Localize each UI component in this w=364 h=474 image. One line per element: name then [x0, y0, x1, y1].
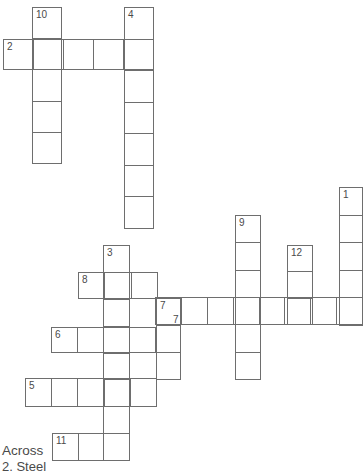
- crossword-cell: [157, 352, 180, 379]
- cell-number: 7: [160, 300, 166, 311]
- crossword-cell: [131, 273, 157, 298]
- crossword-cell: [340, 242, 362, 270]
- crossword-cell: [104, 273, 130, 298]
- crossword-cell: [123, 40, 153, 69]
- crossword-cell: [284, 298, 310, 324]
- word-8-across: 8: [78, 272, 158, 299]
- word-7-across: 7: [155, 297, 363, 325]
- crossword-cell: [33, 69, 61, 100]
- crossword-cell: [104, 353, 129, 380]
- crossword-cell: [93, 40, 123, 69]
- crossword-cell: [236, 242, 260, 269]
- crossword-cell: 3: [104, 246, 129, 272]
- crossword-cell: [340, 270, 362, 298]
- crossword-cell: [181, 298, 207, 324]
- crossword-cell: [340, 215, 362, 243]
- crossword-cell: [157, 325, 180, 352]
- cell-number: 10: [36, 9, 47, 20]
- crossword-cell: [125, 70, 153, 102]
- cell-number: 9: [239, 217, 245, 228]
- cell-number: 3: [107, 247, 113, 258]
- cell-number: 8: [82, 274, 88, 285]
- crossword-cell: 8: [79, 273, 104, 298]
- crossword-cell: 12: [288, 246, 312, 271]
- crossword-cell: [78, 434, 104, 460]
- crossword-cell: [33, 101, 61, 132]
- crossword-cell: [288, 271, 312, 297]
- word-7-down: 7: [156, 298, 181, 380]
- crossword-cell: 7: [157, 299, 180, 325]
- crossword-cell: 2: [4, 40, 33, 69]
- word-2-across: 2: [3, 39, 154, 70]
- crossword-cell: [33, 132, 61, 163]
- word-5-across: 5: [25, 378, 157, 407]
- cell-number: 2: [7, 41, 13, 52]
- crossword-cell: 9: [236, 216, 260, 242]
- crossword-cell: [63, 40, 93, 69]
- crossword-cell: [51, 379, 77, 406]
- crossword-cell: [236, 352, 260, 379]
- crossword-cell: 11: [53, 434, 78, 460]
- crossword-cell: [77, 379, 103, 406]
- cell-number: 11: [56, 435, 66, 446]
- cell-number: 4: [128, 9, 134, 20]
- crossword-cell: [125, 133, 153, 165]
- crossword-cell: 10: [33, 8, 61, 38]
- crossword-cell: [259, 298, 285, 324]
- crossword-cell: [207, 298, 233, 324]
- crossword-cell: [104, 379, 130, 406]
- crossword-cell: [104, 406, 129, 433]
- word-11-across: 11: [52, 433, 130, 461]
- crossword-cell: [236, 270, 260, 297]
- across-heading: Across: [2, 443, 43, 458]
- crossword-cell: 1: [340, 188, 362, 215]
- crossword-cell: [233, 298, 259, 324]
- crossword-cell: [103, 434, 129, 460]
- crossword-cell: [104, 299, 129, 326]
- crossword-cell: [236, 324, 260, 351]
- word-6-across: 6: [51, 327, 156, 353]
- crossword-cell: [125, 196, 153, 228]
- crossword-cell: 5: [26, 379, 51, 406]
- cell-number: 5: [29, 380, 35, 391]
- crossword-cell: [125, 102, 153, 134]
- cell-number: 1: [343, 189, 349, 200]
- crossword-cell: [336, 298, 362, 324]
- crossword-cell: [130, 379, 156, 406]
- crossword-cell: [129, 328, 155, 352]
- cell-number: 6: [55, 329, 61, 340]
- crossword-cell: 6: [52, 328, 77, 352]
- crossword-cell: [125, 165, 153, 197]
- cell-number: 12: [291, 247, 302, 258]
- word-10-down: 10: [32, 7, 62, 164]
- crossword-cell: [310, 298, 336, 324]
- crossword-cell: [77, 328, 103, 352]
- crossword-cell: [103, 328, 129, 352]
- crossword-cell: 4: [125, 8, 153, 39]
- crossword-cell: [33, 40, 63, 69]
- clue-partial: 2. Steel: [2, 459, 46, 474]
